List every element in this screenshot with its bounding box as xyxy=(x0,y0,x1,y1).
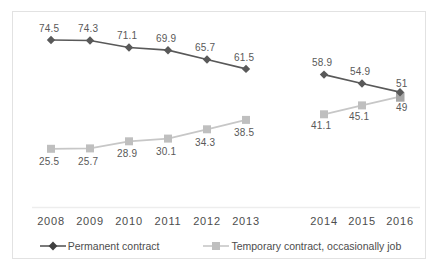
data-label-temporary-2010: 28.9 xyxy=(117,148,137,159)
x-tick-2010: 2010 xyxy=(110,215,148,227)
square-marker-icon xyxy=(203,240,229,252)
data-point-permanent-2013 xyxy=(242,65,250,73)
data-point-temporary-2015 xyxy=(358,101,366,109)
legend-label-temporary: Temporary contract, occasionally job xyxy=(231,240,401,252)
legend-item-permanent[interactable]: Permanent contract xyxy=(40,240,160,252)
data-label-permanent-2008: 74.5 xyxy=(39,23,59,34)
series-temporary-line-left xyxy=(51,120,246,149)
data-point-permanent-2014 xyxy=(320,70,328,78)
series-permanent-line-left xyxy=(51,40,246,69)
data-label-temporary-2013: 38.5 xyxy=(234,127,254,138)
data-point-temporary-2011 xyxy=(164,135,172,143)
data-point-permanent-2015 xyxy=(358,79,366,87)
data-point-temporary-2014 xyxy=(320,110,328,118)
data-label-temporary-2009: 25.7 xyxy=(78,156,98,167)
data-point-permanent-2012 xyxy=(203,55,211,63)
data-point-temporary-2008 xyxy=(47,145,55,153)
chart-plot-area: 74.5 74.3 71.1 69.9 65.7 61.5 58.9 54.9 … xyxy=(0,0,441,275)
data-label-temporary-2015: 45.1 xyxy=(349,111,369,122)
data-point-permanent-2009 xyxy=(86,36,94,44)
x-tick-2008: 2008 xyxy=(32,215,70,227)
x-tick-2012: 2012 xyxy=(188,215,226,227)
data-point-permanent-2008 xyxy=(47,36,55,44)
x-tick-2013: 2013 xyxy=(227,215,265,227)
x-tick-2016: 2016 xyxy=(381,215,419,227)
data-label-permanent-2013: 61.5 xyxy=(234,52,254,63)
chart-legend: Permanent contract Temporary contract, o… xyxy=(0,236,441,256)
data-point-temporary-2010 xyxy=(125,137,133,145)
data-point-temporary-2012 xyxy=(203,125,211,133)
data-point-permanent-2010 xyxy=(125,43,133,51)
legend-label-permanent: Permanent contract xyxy=(68,240,160,252)
data-label-permanent-2016: 51 xyxy=(396,78,408,89)
x-tick-2015: 2015 xyxy=(343,215,381,227)
data-label-temporary-2008: 25.5 xyxy=(39,156,59,167)
data-point-temporary-2013 xyxy=(242,116,250,124)
x-tick-2014: 2014 xyxy=(305,215,343,227)
data-label-permanent-2009: 74.3 xyxy=(78,23,98,34)
data-label-temporary-2014: 41.1 xyxy=(311,120,331,131)
data-label-permanent-2014: 58.9 xyxy=(312,57,332,68)
data-label-temporary-2011: 30.1 xyxy=(156,146,176,157)
x-tick-2011: 2011 xyxy=(149,215,187,227)
data-point-permanent-2011 xyxy=(164,46,172,54)
data-label-permanent-2011: 69.9 xyxy=(156,33,176,44)
x-tick-2009: 2009 xyxy=(71,215,109,227)
data-label-temporary-2012: 34.3 xyxy=(195,137,215,148)
data-label-permanent-2012: 65.7 xyxy=(195,42,215,53)
data-label-temporary-2016: 49 xyxy=(396,102,408,113)
legend-item-temporary[interactable]: Temporary contract, occasionally job xyxy=(203,240,401,252)
data-label-permanent-2010: 71.1 xyxy=(117,30,137,41)
data-point-temporary-2009 xyxy=(86,144,94,152)
chart-svg xyxy=(0,0,441,275)
diamond-marker-icon xyxy=(40,240,66,252)
data-label-permanent-2015: 54.9 xyxy=(350,66,370,77)
